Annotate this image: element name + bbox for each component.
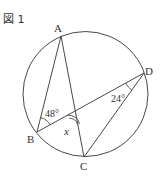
angle-arc-x-inner — [69, 118, 77, 124]
segment-DC — [84, 73, 144, 157]
segment-AC — [61, 36, 84, 157]
label-A: A — [54, 22, 62, 34]
label-D: D — [145, 65, 153, 77]
angle-label-48: 48° — [45, 108, 59, 119]
angle-label-24: 24° — [111, 93, 125, 104]
angle-label-x: x — [63, 125, 69, 137]
segment-BD — [37, 73, 144, 132]
geometry-diagram: A B C D 48° 24° x — [0, 0, 167, 180]
angle-arc-D — [126, 83, 132, 90]
label-C: C — [80, 160, 87, 172]
label-B: B — [27, 133, 34, 145]
